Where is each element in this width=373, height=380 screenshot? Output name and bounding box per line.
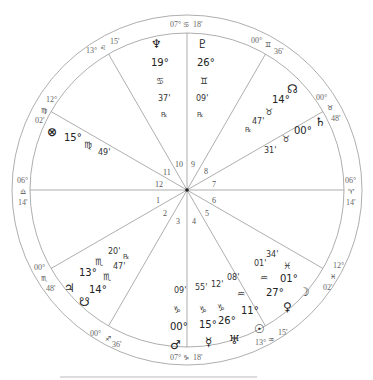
svg-text:02': 02': [323, 283, 333, 292]
svg-text:55': 55': [195, 283, 207, 292]
svg-text:♈: ♈: [348, 188, 354, 196]
svg-text:13°: 13°: [255, 338, 266, 347]
svg-text:♑: ♑: [199, 305, 207, 315]
svg-text:00°: 00°: [90, 329, 101, 338]
svg-text:15°: 15°: [199, 319, 217, 330]
svg-text:℞: ℞: [245, 126, 251, 134]
svg-text:15': 15': [278, 328, 288, 337]
svg-text:37': 37': [158, 94, 170, 103]
neptune-icon: ♆: [151, 37, 162, 51]
cusp-label-11: 13° ♌ 15': [86, 37, 120, 55]
svg-text:14°: 14°: [272, 94, 290, 105]
cusp-label-1: 06° ♎ 14': [17, 176, 28, 207]
center-dot: [185, 188, 189, 192]
mercury-icon: ☿: [205, 335, 212, 349]
house-number-12: 12: [155, 180, 163, 189]
house-number-2: 2: [163, 209, 167, 218]
house-number-4: 4: [192, 217, 196, 226]
house-number-5: 5: [205, 209, 209, 218]
svg-text:15°: 15°: [64, 132, 82, 143]
svg-text:♉: ♉: [327, 104, 333, 112]
svg-text:℞: ℞: [123, 253, 129, 261]
svg-text:48': 48': [331, 114, 341, 123]
saturn-icon: ♄: [315, 115, 326, 129]
svg-text:47': 47': [113, 262, 125, 271]
svg-text:♉: ♉: [282, 134, 290, 144]
svg-text:♓: ♓: [330, 273, 336, 281]
svg-text:12°: 12°: [46, 95, 57, 104]
planet-mercury: 55' ♑ 15° ☿: [195, 283, 217, 349]
svg-text:00°: 00°: [251, 36, 262, 45]
svg-text:♋: ♋: [183, 21, 189, 29]
planet-south-node: ☋: [79, 295, 90, 309]
uranus-icon: ♅: [229, 333, 240, 347]
svg-text:12': 12': [211, 280, 223, 289]
svg-text:♎: ♎: [20, 188, 26, 196]
house-number-8: 8: [204, 167, 208, 176]
svg-text:08': 08': [227, 273, 239, 282]
cusp-label-10: 07° ♋ 18': [170, 20, 203, 29]
part-of-fortune-icon: ⊗: [47, 125, 57, 139]
svg-text:00°: 00°: [316, 93, 327, 102]
cusp-label-6: 12° ♓ 02': [323, 261, 344, 292]
svg-text:15': 15': [110, 37, 120, 46]
house-number-10: 10: [175, 160, 183, 169]
svg-text:18': 18': [193, 353, 203, 362]
svg-text:31': 31': [264, 146, 276, 155]
svg-text:09': 09': [174, 286, 186, 295]
jupiter-icon: ♃: [64, 281, 75, 295]
planet-mars: 09' ♑ 00° ♂: [170, 286, 188, 352]
svg-text:18': 18': [193, 20, 203, 29]
svg-text:♒: ♒: [237, 289, 245, 299]
sun-icon: ☉: [254, 322, 265, 336]
svg-text:00°: 00°: [170, 321, 188, 332]
svg-text:26°: 26°: [218, 315, 236, 326]
svg-text:♒: ♒: [268, 336, 274, 344]
svg-text:℞: ℞: [161, 111, 167, 119]
svg-text:♉: ♉: [265, 107, 273, 117]
pluto-icon: ♇: [197, 37, 208, 51]
svg-text:♐: ♐: [105, 335, 111, 343]
svg-text:♌: ♌: [100, 44, 106, 52]
cusp-label-7: 06° ♈ 14': [345, 176, 356, 207]
svg-text:00°: 00°: [294, 125, 312, 136]
svg-text:34': 34': [266, 250, 278, 259]
svg-text:♏: ♏: [41, 275, 48, 283]
house-number-1: 1: [156, 196, 160, 205]
svg-text:47': 47': [252, 117, 264, 126]
svg-text:26°: 26°: [197, 57, 215, 68]
svg-text:14': 14': [346, 198, 356, 207]
svg-text:06°: 06°: [17, 176, 28, 185]
svg-text:♏: ♏: [103, 272, 111, 282]
svg-text:♍: ♍: [41, 107, 47, 115]
svg-text:20': 20': [108, 247, 120, 256]
svg-text:00°: 00°: [34, 263, 45, 272]
house-number-6: 6: [212, 196, 216, 205]
venus-icon: ♀: [283, 300, 292, 314]
svg-text:13°: 13°: [86, 46, 97, 55]
cusp-label-4: 07° ♑ 18': [170, 353, 203, 362]
svg-text:48': 48': [46, 284, 56, 293]
svg-text:09': 09': [196, 94, 208, 103]
svg-text:01°: 01°: [280, 273, 298, 284]
house-number-11: 11: [163, 168, 171, 177]
svg-text:♓: ♓: [283, 261, 291, 271]
svg-text:06°: 06°: [345, 176, 356, 185]
svg-text:11°: 11°: [241, 305, 259, 316]
cusp-label-9: 00° ♊ 36': [251, 36, 284, 56]
svg-text:♏: ♏: [95, 257, 103, 267]
planet-part-of-fortune: ⊗ 15° ♍ 49': [47, 125, 110, 157]
mars-icon: ♂: [170, 338, 181, 352]
svg-text:07°: 07°: [170, 20, 181, 29]
chart-wheel: 1 2 3 4 5 6 7 8 9 10 11 12 07° ♋ 18' 07°…: [0, 0, 373, 380]
planet-uranus: 12' ♑ 26° ♅: [211, 280, 240, 347]
svg-text:♍: ♍: [84, 140, 92, 150]
svg-text:♑: ♑: [217, 303, 225, 313]
svg-text:♑: ♑: [183, 354, 189, 362]
planet-north-node: ☊ 14° ♉ 47' ℞: [245, 82, 298, 134]
planet-saturn: ♄ 00° ♉ 31': [264, 115, 326, 155]
svg-text:14': 14': [18, 198, 28, 207]
svg-text:07°: 07°: [170, 353, 181, 362]
svg-text:♒: ♒: [260, 273, 268, 283]
house-number-7: 7: [212, 180, 216, 189]
